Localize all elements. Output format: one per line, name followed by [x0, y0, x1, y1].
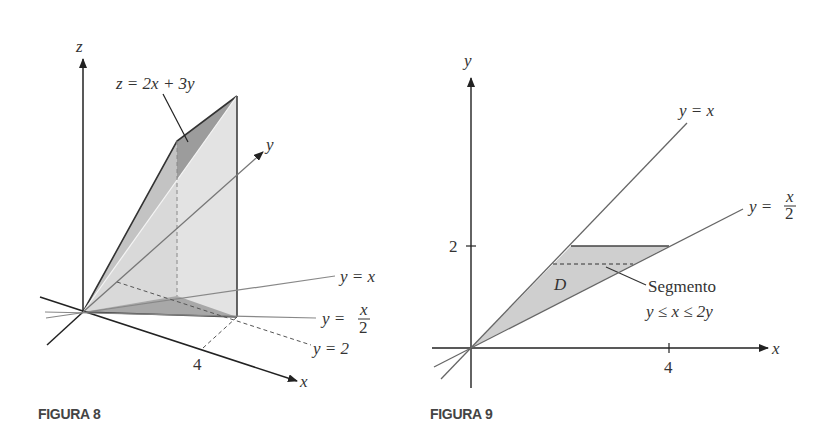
surface-leader — [163, 94, 188, 142]
tick-label-y-2: 2 — [449, 237, 458, 256]
figure-8: z y x z = 2x + 3y y = x y = x 2 y = 2 4 — [40, 37, 376, 391]
label-fraction-den: 2 — [785, 204, 794, 223]
label-y-eq-x-half: y = — [747, 197, 772, 216]
y-axis-label: y — [264, 135, 274, 154]
figure-9-caption: FIGURA 9 — [430, 406, 492, 422]
y-axis-label: y — [462, 51, 472, 70]
tick-x-4: 4 — [193, 355, 202, 374]
x-axis-label: x — [771, 339, 780, 358]
surface-label: z = 2x + 3y — [115, 74, 195, 93]
figure-9: y x 2 4 y = x y = x 2 D Segmento y ≤ x ≤… — [432, 51, 796, 388]
figure-8-caption: FIGURA 8 — [38, 406, 100, 422]
dashed-x4 — [203, 317, 237, 348]
tick-label-x-4: 4 — [664, 358, 673, 377]
label-y-eq-2: y = 2 — [311, 339, 350, 358]
label-y-eq-x: y = x — [338, 267, 376, 286]
label-y-eq-x-half: y = — [320, 309, 345, 328]
x-axis-label: x — [299, 372, 308, 391]
label-y-eq-x: y = x — [677, 101, 715, 120]
figures-canvas: z y x z = 2x + 3y y = x y = x 2 y = 2 4 … — [0, 0, 828, 442]
z-axis-label: z — [75, 37, 83, 56]
segment-label: Segmento — [648, 277, 716, 296]
segment-inequality: y ≤ x ≤ 2y — [644, 302, 713, 321]
region-label: D — [553, 275, 567, 294]
label-fraction-num: x — [359, 300, 368, 319]
label-fraction-den: 2 — [359, 318, 368, 337]
